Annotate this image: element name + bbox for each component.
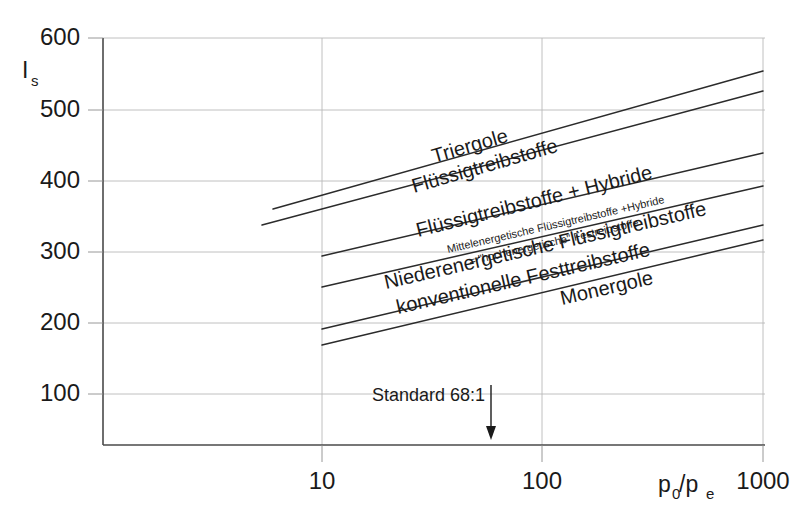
specific-impulse-chart: 600 500 400 300 200 100 10 100 1000 I s … xyxy=(0,0,793,524)
ytick-label-200: 200 xyxy=(40,308,80,335)
standard-annotation-arrow-head xyxy=(486,426,496,440)
x-axis-title-slash-pe: /p xyxy=(679,471,698,497)
standard-annotation: Standard 68:1 xyxy=(372,385,496,440)
y-axis-title-subscript: s xyxy=(31,72,39,89)
series-labels: Triergole Flüssigtreibstoffe Flüssigtrei… xyxy=(382,124,708,318)
y-axis-title-main: I xyxy=(22,57,28,83)
x-axis-title: p 0 /p e xyxy=(658,471,714,502)
y-axis-title: I s xyxy=(22,57,39,89)
ytick-label-600: 600 xyxy=(40,23,80,50)
ytick-label-300: 300 xyxy=(40,237,80,264)
chart-canvas: 600 500 400 300 200 100 10 100 1000 I s … xyxy=(0,0,793,524)
ytick-label-400: 400 xyxy=(40,166,80,193)
x-tick-marks xyxy=(322,445,763,462)
ytick-label-100: 100 xyxy=(40,379,80,406)
y-tick-marks xyxy=(88,38,103,394)
ytick-label-500: 500 xyxy=(40,95,80,122)
xtick-label-10: 10 xyxy=(309,467,336,494)
x-axis-title-p0: p xyxy=(658,471,671,497)
xtick-label-100: 100 xyxy=(522,467,562,494)
xtick-label-1000: 1000 xyxy=(736,467,789,494)
series-line-triergole xyxy=(273,71,763,209)
x-tick-labels: 10 100 1000 xyxy=(309,467,790,494)
y-tick-labels: 600 500 400 300 200 100 xyxy=(40,23,80,406)
standard-annotation-label: Standard 68:1 xyxy=(372,385,485,405)
x-axis-title-sub-e: e xyxy=(706,485,714,502)
